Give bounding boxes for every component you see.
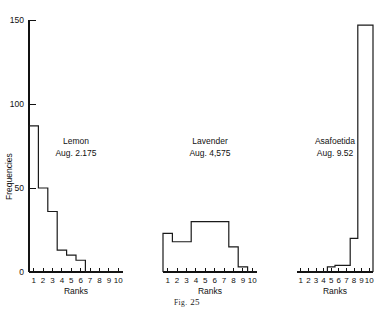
x-tick-label: 10 — [248, 276, 257, 285]
panel-group: 12345678910RanksLemonAug. 2.175123456789… — [29, 25, 374, 296]
figure-caption: Fig. 25 — [0, 297, 374, 307]
x-tick-label: 10 — [114, 276, 123, 285]
x-tick-label: 4 — [321, 276, 326, 285]
x-tick-label: 9 — [359, 276, 364, 285]
x-tick-label: 4 — [194, 276, 199, 285]
histogram-chart: 050100150 Frequencies 12345678910RanksLe… — [0, 0, 374, 318]
figure-container: 050100150 Frequencies 12345678910RanksLe… — [0, 0, 374, 318]
figure-caption-prefix: Fig. — [174, 298, 187, 307]
x-tick-label: 3 — [184, 276, 189, 285]
y-tick-label: 50 — [15, 183, 25, 193]
x-tick-label: 7 — [88, 276, 93, 285]
y-tick-label: 0 — [19, 267, 24, 277]
y-axis-ticks — [29, 20, 36, 188]
panel-average-label: Aug. 4,575 — [189, 148, 230, 158]
x-tick-label: 5 — [69, 276, 74, 285]
x-tick-label: 9 — [107, 276, 112, 285]
x-tick-label: 8 — [97, 276, 102, 285]
x-tick-label: 4 — [60, 276, 65, 285]
x-tick-label: 6 — [212, 276, 217, 285]
histogram-outline — [163, 222, 257, 272]
x-tick-label: 2 — [41, 276, 46, 285]
panel-average-label: Aug. 2.175 — [55, 148, 96, 158]
x-axis-title: Ranks — [323, 286, 347, 296]
panel-asafoetida: 12345678910RanksAsafoetidaAug. 9.52 — [297, 25, 374, 296]
y-tick-label: 150 — [10, 15, 24, 25]
x-tick-label: 5 — [203, 276, 208, 285]
y-axis-title: Frequencies — [4, 153, 14, 200]
x-tick-label: 10 — [365, 276, 374, 285]
y-tick-label: 100 — [10, 99, 24, 109]
x-tick-label: 8 — [231, 276, 236, 285]
panel-name-label: Lavender — [192, 136, 228, 146]
figure-caption-number: 25 — [190, 297, 200, 307]
panel-lavender: 12345678910RanksLavenderAug. 4,575 — [163, 136, 257, 296]
x-tick-label: 7 — [344, 276, 349, 285]
x-tick-label: 6 — [337, 276, 342, 285]
x-axis-title: Ranks — [64, 286, 88, 296]
panel-lemon: 12345678910RanksLemonAug. 2.175 — [29, 126, 123, 296]
x-tick-label: 2 — [175, 276, 180, 285]
x-axis-title: Ranks — [198, 286, 222, 296]
y-axis: 050100150 Frequencies — [4, 15, 36, 277]
x-tick-label: 1 — [165, 276, 170, 285]
x-tick-label: 8 — [352, 276, 357, 285]
y-axis-tick-labels: 050100150 — [10, 15, 24, 277]
panel-name-label: Lemon — [63, 136, 89, 146]
panel-average-label: Aug. 9.52 — [317, 148, 354, 158]
x-tick-label: 2 — [306, 276, 311, 285]
x-tick-label: 5 — [329, 276, 334, 285]
x-tick-label: 3 — [314, 276, 319, 285]
x-tick-label: 1 — [31, 276, 36, 285]
panel-name-label: Asafoetida — [315, 136, 355, 146]
x-tick-label: 1 — [299, 276, 304, 285]
x-tick-label: 9 — [241, 276, 246, 285]
x-tick-label: 3 — [50, 276, 55, 285]
x-tick-label: 6 — [78, 276, 83, 285]
x-tick-label: 7 — [222, 276, 227, 285]
